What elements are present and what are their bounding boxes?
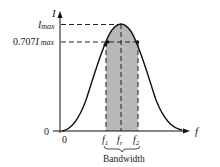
x-axis-label: f — [195, 125, 200, 137]
fr-label: fr — [117, 134, 123, 147]
y-axis-arrow-icon — [58, 11, 63, 18]
f1-label: f1 — [102, 134, 108, 147]
f2-half-power-point — [136, 40, 140, 44]
resonance-diagram: I f Imax 0.707Imax 0 0 f1 fr f2 Bandwidt… — [0, 0, 220, 167]
f2-label: f2 — [133, 134, 140, 147]
bandwidth-label: Bandwidth — [103, 154, 145, 164]
half-power-label: 0.707Imax — [13, 36, 55, 47]
y-axis-label: I — [51, 7, 57, 19]
imax-label: Imax — [37, 19, 55, 31]
origin-y-label: 0 — [44, 126, 49, 137]
x-axis-arrow-icon — [183, 129, 190, 134]
origin-x-label: 0 — [62, 134, 67, 145]
